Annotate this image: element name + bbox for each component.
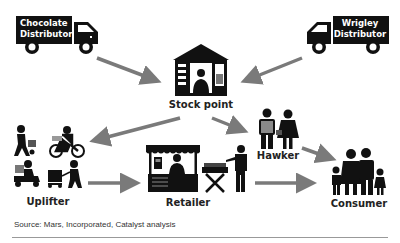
stock-point-shop-icon — [171, 42, 231, 98]
footer-divider — [12, 237, 388, 238]
hawker-label: Hawker — [250, 150, 306, 161]
arrow-stockpoint-to-hawker — [212, 118, 242, 130]
stock-point-label: Stock point — [168, 99, 234, 110]
arrow-stockpoint-to-uplifter — [96, 118, 180, 140]
source-note: Source: Mars, Incorporated, Catalyst ana… — [14, 220, 175, 229]
uplifter-label: Uplifter — [18, 196, 78, 207]
hawker-people-icon — [256, 108, 302, 150]
consumer-family-icon — [330, 148, 388, 196]
chocolate-distributor-label: Chocolate Distributor — [20, 18, 72, 40]
arrow-hawker-to-consumer — [302, 148, 330, 158]
uplifter-icons — [12, 124, 86, 190]
arrow-chocolate-to-stockpoint — [97, 58, 155, 80]
retailer-stall-icon — [146, 143, 250, 195]
arrow-wrigley-to-stockpoint — [247, 58, 302, 80]
consumer-label: Consumer — [326, 198, 392, 209]
wrigley-distributor-label: Wrigley Distributor — [333, 18, 387, 40]
retailer-label: Retailer — [160, 197, 216, 208]
